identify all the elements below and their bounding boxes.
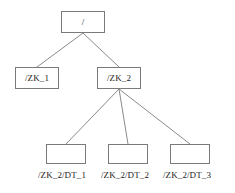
- edge-root-to-zk2: [83, 33, 119, 67]
- node-dt-2-caption: /ZK_2/DT_2: [101, 171, 149, 180]
- node-zk-2-label: /ZK_2: [107, 74, 131, 83]
- edge-zk2-to-dt1: [66, 89, 119, 144]
- node-dt-1[interactable]: [46, 144, 86, 164]
- edge-zk2-to-dt2: [119, 89, 128, 144]
- node-dt-3[interactable]: [170, 144, 210, 164]
- node-root-label: /: [82, 18, 85, 27]
- edge-layer: [0, 0, 235, 193]
- node-root[interactable]: /: [61, 11, 105, 33]
- node-zk-1[interactable]: /ZK_1: [15, 67, 59, 89]
- node-dt-3-caption: /ZK_2/DT_3: [163, 171, 211, 180]
- edge-zk2-to-dt3: [119, 89, 190, 144]
- node-dt-2[interactable]: [108, 144, 148, 164]
- tree-diagram: / /ZK_1 /ZK_2 /ZK_2/DT_1 /ZK_2/DT_2 /ZK_…: [0, 0, 235, 193]
- node-zk-1-label: /ZK_1: [25, 74, 49, 83]
- node-dt-1-caption: /ZK_2/DT_1: [38, 171, 86, 180]
- node-zk-2[interactable]: /ZK_2: [97, 67, 141, 89]
- edge-root-to-zk1: [37, 33, 83, 67]
